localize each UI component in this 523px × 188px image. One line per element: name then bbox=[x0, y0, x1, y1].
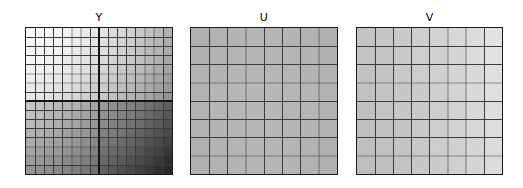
panel-u-title: U bbox=[190, 12, 338, 24]
yuv-component-figure: Y U V bbox=[0, 0, 523, 188]
v-heatmap-canvas bbox=[357, 28, 502, 174]
v-component-heatmap bbox=[356, 27, 503, 175]
u-component-heatmap bbox=[190, 27, 338, 175]
panel-v-title: V bbox=[356, 12, 503, 24]
panel-y-title: Y bbox=[25, 12, 173, 24]
y-heatmap-canvas bbox=[26, 28, 172, 174]
u-heatmap-canvas bbox=[191, 28, 337, 174]
y-component-heatmap bbox=[25, 27, 173, 175]
